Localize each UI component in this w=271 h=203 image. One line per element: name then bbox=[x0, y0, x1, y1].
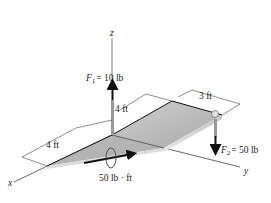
x-axis-label: x bbox=[7, 178, 13, 188]
post-f2 bbox=[214, 119, 217, 137]
y-axis-label: y bbox=[243, 166, 249, 176]
statics-diagram: z x y F1= 10 lb F2= 50 lb 4 ft 4 ft 3 ft… bbox=[0, 0, 271, 203]
dimension-length-label: 4 ft bbox=[46, 140, 59, 150]
post-f1 bbox=[111, 100, 114, 135]
force-f2-label: F2= 50 lb bbox=[220, 145, 259, 157]
force-f1-label: F1= 10 lb bbox=[85, 73, 124, 85]
ball-support-icon bbox=[212, 111, 219, 118]
z-axis-label: z bbox=[109, 28, 114, 38]
dimension-height-label: 4 ft bbox=[115, 104, 128, 114]
dimension-width-label: 3 ft bbox=[199, 91, 212, 101]
couple-moment-label: 50 lb · ft bbox=[99, 173, 132, 183]
